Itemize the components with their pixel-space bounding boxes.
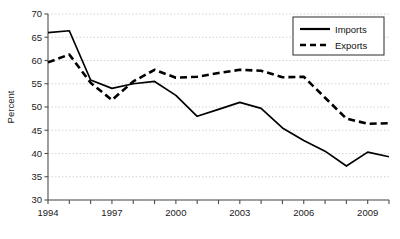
y-tick-label-35: 35 bbox=[31, 171, 42, 182]
line-chart: 303540455055606570 199419972000200320062… bbox=[0, 0, 400, 239]
x-tick-label-2009: 2009 bbox=[357, 207, 378, 218]
y-axis-title: Percent bbox=[5, 90, 16, 123]
y-tick-label-55: 55 bbox=[31, 78, 42, 89]
x-tick-label-2003: 2003 bbox=[229, 207, 250, 218]
x-tick-label-2006: 2006 bbox=[293, 207, 314, 218]
x-tick-label-2000: 2000 bbox=[165, 207, 186, 218]
chart-canvas: 303540455055606570 199419972000200320062… bbox=[0, 0, 400, 239]
y-tick-label-70: 70 bbox=[31, 8, 42, 19]
x-tick-label-1997: 1997 bbox=[101, 207, 122, 218]
legend-label-imports: Imports bbox=[335, 24, 367, 35]
y-tick-label-45: 45 bbox=[31, 125, 42, 136]
y-tick-label-30: 30 bbox=[31, 194, 42, 205]
legend-label-exports: Exports bbox=[335, 40, 367, 51]
x-tick-label-1994: 1994 bbox=[37, 207, 58, 218]
y-tick-label-40: 40 bbox=[31, 148, 42, 159]
y-tick-label-65: 65 bbox=[31, 32, 42, 43]
chart-legend: ImportsExports bbox=[293, 17, 384, 55]
y-tick-label-50: 50 bbox=[31, 101, 42, 112]
y-tick-label-60: 60 bbox=[31, 55, 42, 66]
